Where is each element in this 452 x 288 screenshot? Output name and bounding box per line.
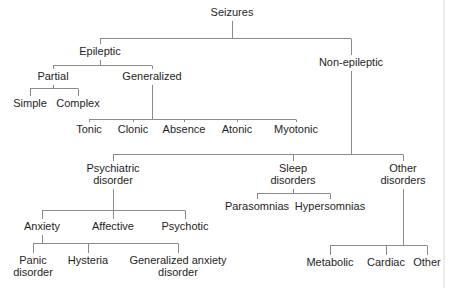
node-metabolic: Metabolic (306, 256, 353, 268)
node-generalized: Generalized (122, 70, 181, 82)
node-label-line: Generalized anxiety (129, 254, 226, 266)
node-sleep: Sleepdisorders (270, 162, 315, 186)
node-tonic: Tonic (76, 123, 102, 135)
node-label-line: Panic (13, 254, 53, 266)
node-atonic: Atonic (222, 123, 253, 135)
node-other: Other (413, 256, 441, 268)
node-generalized-anxiety: Generalized anxietydisorder (129, 254, 226, 278)
node-epileptic: Epileptic (79, 45, 121, 57)
node-seizures: Seizures (211, 6, 254, 18)
node-hysteria: Hysteria (68, 254, 108, 266)
tree-diagram (0, 0, 452, 288)
node-clonic: Clonic (118, 123, 149, 135)
node-psychiatric: Psychiatricdisorder (86, 162, 139, 186)
node-label-line: Sleep (270, 162, 315, 174)
node-label-line: Other (380, 162, 425, 174)
node-label-line: disorders (270, 174, 315, 186)
node-anxiety: Anxiety (24, 220, 60, 232)
node-label-line: disorder (86, 174, 139, 186)
node-cardiac: Cardiac (367, 256, 405, 268)
node-myotonic: Myotonic (274, 123, 318, 135)
node-label-line: Psychiatric (86, 162, 139, 174)
node-absence: Absence (163, 123, 206, 135)
node-psychotic: Psychotic (161, 220, 208, 232)
node-panic: Panicdisorder (13, 254, 53, 278)
node-partial: Partial (37, 70, 68, 82)
node-simple: Simple (13, 97, 47, 109)
node-other-disorders: Otherdisorders (380, 162, 425, 186)
node-label-line: disorder (129, 266, 226, 278)
node-complex: Complex (56, 97, 99, 109)
node-affective: Affective (92, 220, 134, 232)
page-edge-shadow (443, 0, 445, 288)
node-label-line: disorder (13, 266, 53, 278)
node-parasomnias: Parasomnias (225, 200, 289, 212)
node-label-line: disorders (380, 174, 425, 186)
node-non-epileptic: Non-epileptic (319, 56, 383, 68)
node-hypersomnias: Hypersomnias (295, 200, 365, 212)
